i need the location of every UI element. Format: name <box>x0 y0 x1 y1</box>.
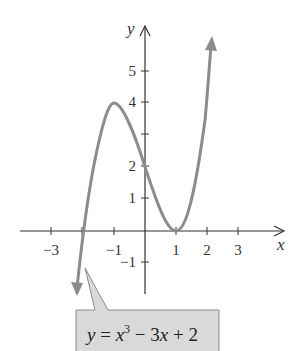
curve-arrow-down-icon <box>71 282 83 296</box>
curve-arrow-up-icon <box>205 36 217 51</box>
y-tick-label-2: 2 <box>129 158 137 174</box>
x-axis: −3 −1 1 2 3 x <box>20 226 285 258</box>
y-tick-label-4: 4 <box>129 94 137 110</box>
x-tick-label-m3: −3 <box>43 242 59 258</box>
y-tick-label-5: 5 <box>129 63 137 79</box>
x-tick-label-1: 1 <box>172 242 180 258</box>
y-axis: 5 4 2 1 −1 y <box>120 19 150 294</box>
function-curve <box>77 46 211 288</box>
x-axis-label: x <box>276 235 285 254</box>
x-tick-label-2: 2 <box>203 242 211 258</box>
equation-callout: y = x3 − 3x + 2 <box>76 268 219 351</box>
y-tick-label-1: 1 <box>129 190 137 206</box>
equation-label: y = x3 − 3x + 2 <box>85 322 198 345</box>
cubic-function-chart: −3 −1 1 2 3 x 5 4 2 1 −1 y y = x3 − 3x +… <box>0 0 305 351</box>
x-tick-label-3: 3 <box>234 242 242 258</box>
y-tick-label-m1: −1 <box>120 254 136 270</box>
y-axis-label: y <box>125 19 135 38</box>
